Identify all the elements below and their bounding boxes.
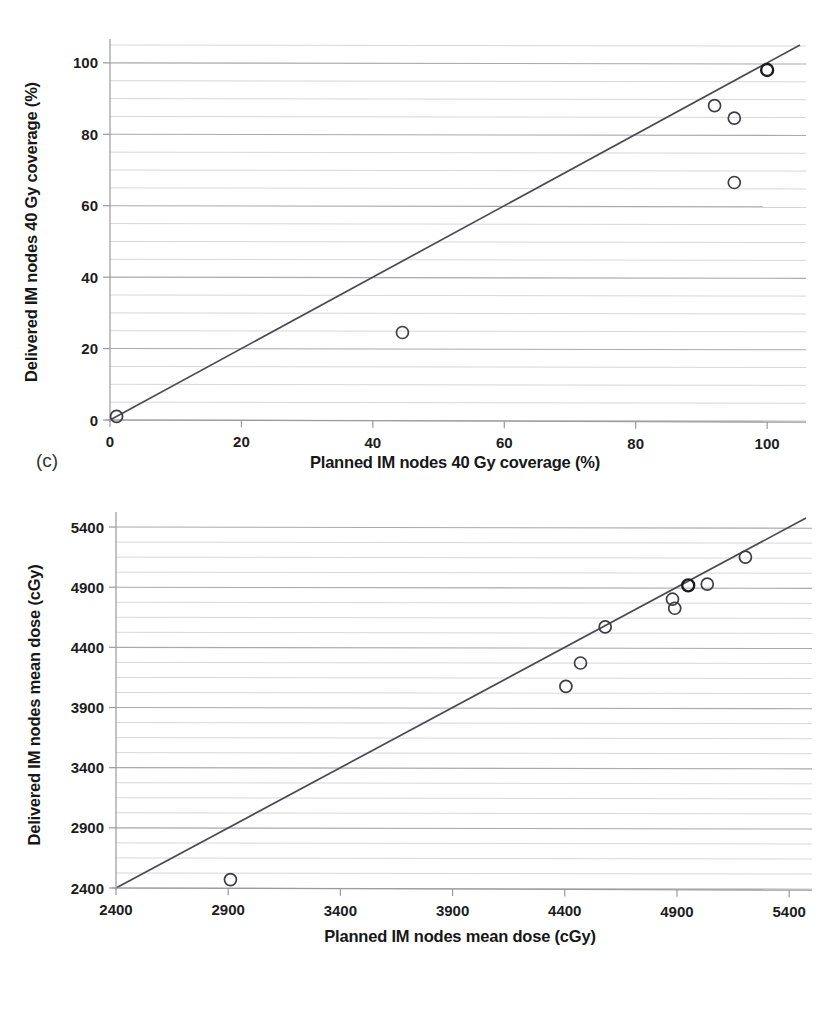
y-tick-label: 40 bbox=[81, 269, 98, 286]
data-point bbox=[739, 551, 751, 563]
x-tick-label: 0 bbox=[106, 433, 114, 450]
x-axis-ticks: 020406080100 bbox=[106, 420, 780, 452]
x-tick-label: 20 bbox=[233, 433, 250, 450]
y-tick-label: 20 bbox=[81, 340, 98, 357]
gridline-major bbox=[110, 63, 806, 64]
x-tick-label: 100 bbox=[755, 435, 780, 452]
gridline-minor bbox=[110, 116, 806, 117]
gridline-minor bbox=[116, 738, 812, 739]
x-axis-title: Planned IM nodes 40 Gy coverage (%) bbox=[310, 453, 600, 471]
gridline-minor bbox=[116, 873, 812, 874]
y-tick-label: 4400 bbox=[71, 639, 104, 656]
gridline-minor bbox=[116, 843, 812, 844]
y-axis-title: Delivered IM nodes mean dose (cGy) bbox=[25, 564, 43, 845]
gridline-major bbox=[110, 349, 806, 350]
gridline-major bbox=[110, 134, 806, 135]
x-tick-label: 40 bbox=[365, 434, 382, 451]
gridline-minor bbox=[116, 617, 812, 618]
gridline-major bbox=[116, 647, 812, 648]
gridline-minor bbox=[116, 813, 812, 814]
data-point bbox=[728, 177, 740, 189]
gridline-minor bbox=[110, 331, 806, 332]
gridline-minor bbox=[110, 384, 806, 385]
y-axis-ticks: 020406080100 bbox=[73, 54, 110, 428]
gridline-minor bbox=[110, 402, 806, 403]
gridline-minor bbox=[116, 692, 812, 693]
scatter-plot-mean-dose: 2400290034003900440049005400240029003400… bbox=[0, 490, 832, 1022]
y-tick-label: 2400 bbox=[71, 880, 104, 897]
data-point bbox=[761, 64, 773, 76]
gridline-minor bbox=[110, 188, 806, 189]
gridline-minor bbox=[116, 662, 812, 663]
gridline-minor bbox=[116, 557, 812, 558]
gridline-major bbox=[116, 587, 812, 588]
y-tick-label: 100 bbox=[73, 54, 98, 71]
data-point bbox=[560, 680, 572, 692]
y-tick-label: 3900 bbox=[71, 699, 104, 716]
gridline-minor bbox=[110, 259, 806, 260]
data-point bbox=[599, 621, 611, 633]
gridline-minor bbox=[110, 152, 806, 153]
y-axis-title: Delivered IM nodes 40 Gy coverage (%) bbox=[22, 82, 40, 382]
data-point bbox=[709, 100, 721, 112]
data-points bbox=[224, 551, 751, 885]
gridline-major bbox=[116, 828, 812, 829]
chart-panel-c: 020406080100020406080100Delivered IM nod… bbox=[0, 0, 832, 500]
gridline-minor bbox=[110, 45, 806, 46]
y-tick-label: 2900 bbox=[71, 819, 104, 836]
gridline-minor bbox=[116, 632, 812, 633]
y-tick-label: 3400 bbox=[71, 759, 104, 776]
x-tick-label: 4900 bbox=[660, 903, 693, 920]
gridline-major bbox=[110, 277, 806, 278]
gridline-minor bbox=[116, 572, 812, 573]
x-tick-label: 4400 bbox=[548, 902, 581, 919]
gridline-minor bbox=[116, 602, 812, 603]
x-tick-label: 80 bbox=[627, 435, 644, 452]
gridline-major bbox=[110, 206, 806, 207]
x-tick-label: 2400 bbox=[99, 901, 132, 918]
y-tick-label: 0 bbox=[90, 412, 98, 429]
x-tick-label: 2900 bbox=[212, 901, 245, 918]
gridline-major bbox=[116, 527, 812, 528]
x-tick-label: 3900 bbox=[436, 902, 469, 919]
data-point bbox=[396, 327, 408, 339]
gridline-minor bbox=[116, 753, 812, 754]
gridline-minor bbox=[116, 798, 812, 799]
identity-line bbox=[116, 518, 806, 888]
gridline-minor bbox=[116, 542, 812, 543]
gridline-major bbox=[116, 768, 812, 769]
gridline-minor bbox=[110, 81, 806, 82]
gridline-minor bbox=[110, 241, 806, 242]
gridline-minor bbox=[110, 313, 806, 314]
data-point bbox=[224, 874, 236, 886]
gridline-minor bbox=[110, 224, 806, 225]
data-point bbox=[728, 112, 740, 124]
gridline-minor bbox=[116, 677, 812, 678]
gridline-minor bbox=[110, 170, 806, 171]
y-tick-label: 80 bbox=[81, 126, 98, 143]
y-tick-label: 4900 bbox=[71, 579, 104, 596]
x-tick-label: 5400 bbox=[772, 903, 805, 920]
y-tick-label: 60 bbox=[81, 197, 98, 214]
gridline-minor bbox=[116, 858, 812, 859]
gridline-major bbox=[116, 708, 812, 709]
x-axis-ticks: 2400290034003900440049005400 bbox=[99, 888, 806, 920]
x-tick-label: 3400 bbox=[324, 902, 357, 919]
y-tick-label: 5400 bbox=[71, 519, 104, 536]
gridline-minor bbox=[110, 295, 806, 296]
scatter-plot-coverage: 020406080100020406080100Delivered IM nod… bbox=[0, 0, 832, 500]
gridlines-major bbox=[116, 527, 812, 889]
chart-panel-d: 2400290034003900440049005400240029003400… bbox=[0, 490, 832, 1022]
x-axis-title: Planned IM nodes mean dose (cGy) bbox=[324, 927, 595, 945]
x-tick-label: 60 bbox=[496, 434, 513, 451]
identity-line bbox=[110, 45, 800, 420]
panel-letter-c: (c) bbox=[36, 450, 58, 472]
gridline-minor bbox=[110, 366, 806, 367]
y-axis-ticks: 2400290034003900440049005400 bbox=[71, 519, 116, 897]
gridline-minor bbox=[116, 723, 812, 724]
gridline-minor bbox=[116, 783, 812, 784]
